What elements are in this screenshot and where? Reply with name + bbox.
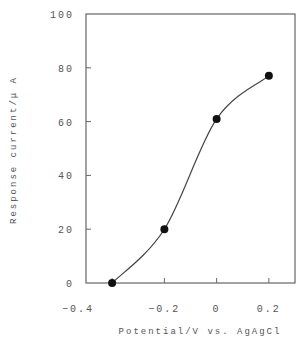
data-point bbox=[213, 115, 221, 123]
chart: 020406080100 −0.4−0.200.2 Potential/V vs… bbox=[0, 0, 307, 347]
x-axis-title: Potential/V vs. AgAgCl bbox=[119, 327, 282, 337]
plot-border bbox=[86, 14, 295, 283]
data-markers bbox=[108, 72, 273, 287]
data-point bbox=[108, 279, 116, 287]
data-line bbox=[112, 76, 269, 283]
x-tick-label: 0 bbox=[213, 304, 221, 315]
y-tick-label: 0 bbox=[66, 279, 74, 290]
y-tick-label: 80 bbox=[58, 64, 74, 75]
y-axis-title: Response current/μ A bbox=[9, 76, 19, 224]
x-tick-label: −0.4 bbox=[62, 304, 94, 315]
plot-frame bbox=[86, 14, 295, 283]
data-point bbox=[265, 72, 273, 80]
x-tick-label: 0.2 bbox=[257, 304, 281, 315]
y-tick-label: 60 bbox=[58, 118, 74, 129]
y-tick-label: 20 bbox=[58, 225, 74, 236]
x-tick-label: −0.2 bbox=[148, 304, 180, 315]
y-axis-ticks: 020406080100 bbox=[50, 10, 91, 290]
y-tick-label: 100 bbox=[50, 10, 74, 21]
y-tick-label: 40 bbox=[58, 171, 74, 182]
data-point bbox=[160, 225, 168, 233]
